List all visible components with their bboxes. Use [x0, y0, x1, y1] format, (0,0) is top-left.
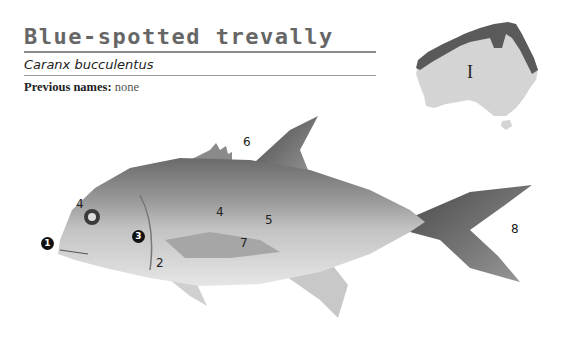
label-1: 1	[41, 237, 54, 250]
previous-names-label: Previous names:	[24, 80, 112, 94]
label-8: 8	[511, 222, 519, 236]
label-2: 2	[156, 256, 164, 270]
common-name-title: Blue-spotted trevally	[24, 24, 334, 49]
previous-names-value: none	[115, 80, 139, 94]
region-label: I	[467, 62, 473, 82]
label-5: 5	[265, 213, 273, 227]
label-6: 6	[243, 135, 251, 149]
fish-body	[58, 158, 425, 286]
subtitle-divider	[24, 75, 376, 76]
label-7: 7	[240, 236, 248, 250]
fish-illustration	[0, 110, 562, 338]
label-4-head: 4	[76, 197, 84, 211]
scientific-name: Caranx bucculentus	[24, 57, 153, 72]
previous-names: Previous names: none	[24, 80, 139, 95]
title-divider	[24, 51, 376, 53]
label-3: 3	[132, 230, 145, 243]
label-4-body: 4	[216, 205, 224, 219]
